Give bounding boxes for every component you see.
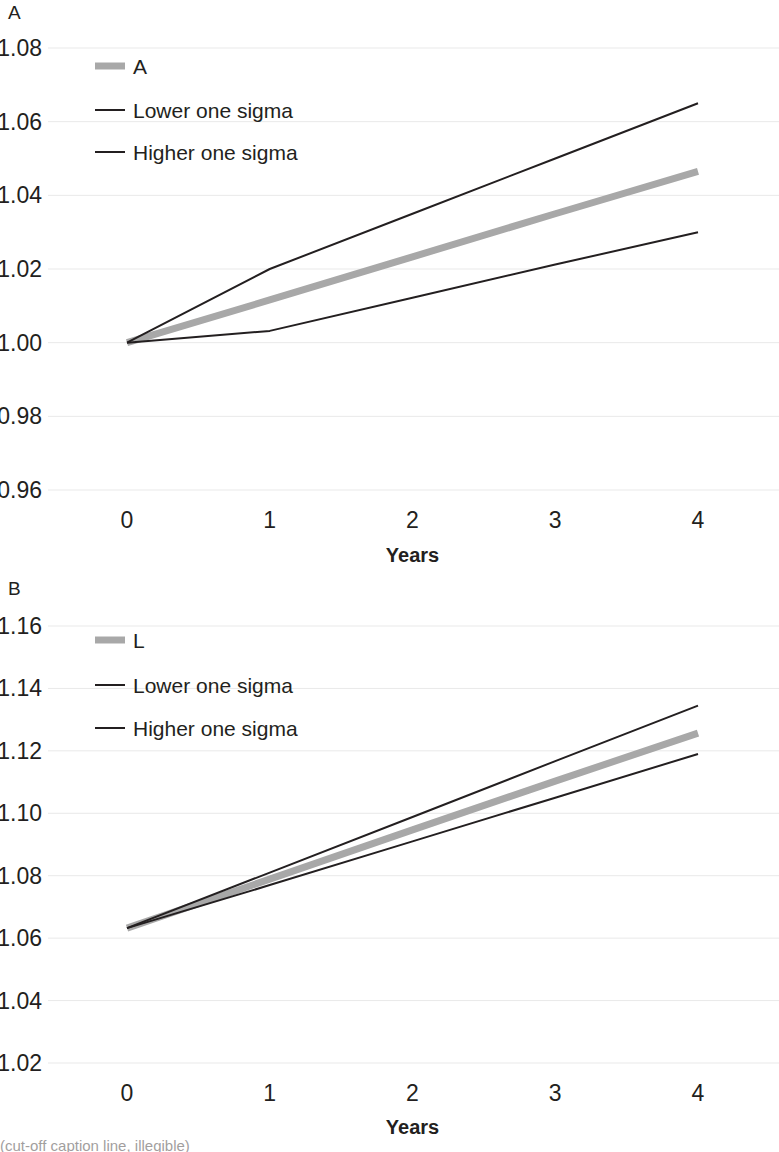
y-axis-tick-label: 1.04 — [0, 988, 42, 1014]
x-axis-tick-label: 0 — [121, 1080, 134, 1106]
series-line-l — [127, 733, 698, 928]
legend-label-a[interactable]: A — [133, 55, 147, 78]
y-axis-tick-label: 0.96 — [0, 477, 42, 503]
series-line-higher-one-sigma — [127, 103, 698, 342]
legend-label-lower-one-sigma[interactable]: Lower one sigma — [133, 674, 293, 697]
figure-caption-text: (cut-off caption line, illegible) — [0, 1138, 779, 1152]
figure-root: A 1.081.061.041.021.000.980.9601234Years… — [0, 0, 779, 1152]
y-axis-tick-label: 1.02 — [0, 1050, 42, 1076]
x-axis-tick-label: 4 — [692, 507, 705, 533]
y-axis-tick-label: 1.00 — [0, 330, 42, 356]
series-line-a — [127, 171, 698, 342]
legend-label-lower-one-sigma[interactable]: Lower one sigma — [133, 99, 293, 122]
panel-a-letter: A — [8, 2, 21, 24]
x-axis-title: Years — [386, 1116, 439, 1138]
legend-label-higher-one-sigma[interactable]: Higher one sigma — [133, 717, 298, 740]
y-axis-tick-label: 1.02 — [0, 256, 42, 282]
chart-panel-b: B 1.161.141.121.101.081.061.041.0201234Y… — [0, 578, 779, 1138]
x-axis-tick-label: 3 — [549, 1080, 562, 1106]
x-axis-tick-label: 3 — [549, 507, 562, 533]
y-axis-tick-label: 1.04 — [0, 182, 42, 208]
panel-b-plot: 1.161.141.121.101.081.061.041.0201234Yea… — [0, 578, 779, 1138]
figure-caption: (cut-off caption line, illegible) — [0, 1138, 779, 1152]
y-axis-tick-label: 1.10 — [0, 800, 42, 826]
legend-label-higher-one-sigma[interactable]: Higher one sigma — [133, 141, 298, 164]
x-axis-tick-label: 2 — [406, 507, 419, 533]
panel-b-letter: B — [8, 578, 21, 600]
y-axis-tick-label: 1.16 — [0, 613, 42, 639]
x-axis-tick-label: 2 — [406, 1080, 419, 1106]
y-axis-tick-label: 1.08 — [0, 35, 42, 61]
x-axis-tick-label: 0 — [121, 507, 134, 533]
series-line-lower-one-sigma — [127, 754, 698, 928]
panel-a-plot: 1.081.061.041.021.000.980.9601234YearsAL… — [0, 0, 779, 570]
y-axis-tick-label: 1.12 — [0, 738, 42, 764]
y-axis-tick-label: 1.08 — [0, 863, 42, 889]
y-axis-tick-label: 1.06 — [0, 109, 42, 135]
series-line-lower-one-sigma — [127, 232, 698, 343]
y-axis-tick-label: 1.14 — [0, 675, 42, 701]
legend-label-l[interactable]: L — [133, 629, 145, 652]
x-axis-tick-label: 1 — [263, 507, 276, 533]
y-axis-tick-label: 1.06 — [0, 925, 42, 951]
x-axis-title: Years — [386, 544, 439, 566]
x-axis-tick-label: 4 — [692, 1080, 705, 1106]
x-axis-tick-label: 1 — [263, 1080, 276, 1106]
y-axis-tick-label: 0.98 — [0, 403, 42, 429]
chart-panel-a: A 1.081.061.041.021.000.980.9601234Years… — [0, 0, 779, 570]
